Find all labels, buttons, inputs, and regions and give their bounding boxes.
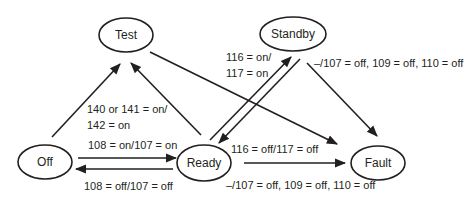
- edge-ready-to-test: [131, 63, 201, 135]
- node-fault: Fault: [351, 146, 405, 180]
- node-test: Test: [99, 18, 153, 52]
- edge-label-off-ready: 108 = on/107 = on: [88, 139, 177, 151]
- node-off: Off: [18, 145, 72, 179]
- node-ready: Ready: [177, 145, 231, 181]
- edge-label-off-test-1: 140 or 141 = on/: [87, 103, 168, 115]
- edge-label-ready-standby-2: 117 = on: [226, 67, 268, 79]
- node-off-label: Off: [37, 155, 53, 169]
- state-diagram: Test Standby Off Ready Fault 140 or 141 …: [0, 0, 467, 202]
- node-standby: Standby: [260, 17, 326, 51]
- edge-label-ready-fault: –/107 = off, 109 = off, 110 = off: [226, 179, 376, 191]
- node-ready-label: Ready: [187, 156, 222, 170]
- edge-label-off-test-2: 142 = on: [87, 119, 130, 131]
- edge-label-standby-ready: 116 = off/117 = off: [231, 143, 319, 155]
- edge-label-ready-off: 108 = off/107 = off: [84, 180, 174, 192]
- edge-label-ready-standby-1: 116 = on/: [226, 51, 272, 63]
- node-standby-label: Standby: [271, 27, 315, 41]
- edge-label-standby-fault: –/107 = off, 109 = off, 110 = off: [314, 57, 464, 69]
- node-test-label: Test: [115, 28, 138, 42]
- node-fault-label: Fault: [365, 156, 392, 170]
- edge-standby-to-fault: [307, 63, 377, 136]
